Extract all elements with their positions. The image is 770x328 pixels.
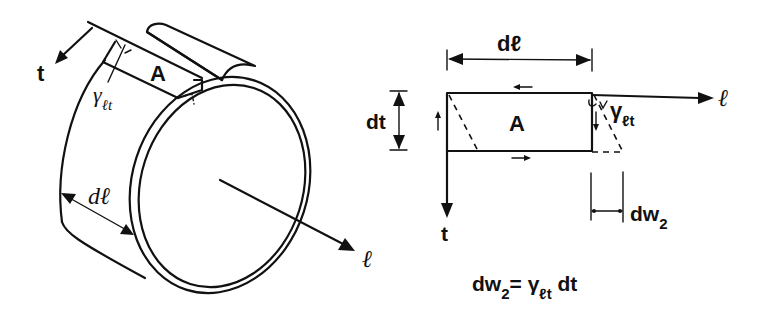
shear-arrow-bottom-head [524, 155, 531, 161]
shear-arrow-left-head [435, 111, 441, 118]
eq-equals: = [510, 272, 522, 295]
gamma-subscript: ℓt [102, 97, 112, 113]
tube-front-ring-inner [113, 63, 331, 309]
strain-angle-tick [125, 50, 131, 53]
eq-lhs-sub: 2 [501, 285, 509, 302]
dl-text: dℓ [497, 31, 521, 56]
strain-label-right: γℓt [610, 100, 635, 122]
gamma-symbol: γ [93, 82, 102, 107]
t-axis-label-left: t [37, 63, 44, 85]
dw2-dot-left [592, 209, 596, 213]
eq-gamma: γ [528, 272, 540, 295]
t-axis-arrowhead-right [441, 203, 453, 218]
tube-top-edge [88, 22, 202, 78]
element-a-left-edge [103, 42, 115, 62]
dt-arrowhead-top [393, 92, 405, 106]
dw2-dot-right [618, 209, 622, 213]
strain-angle-arc-2 [600, 101, 607, 108]
diagram-graphics [0, 0, 770, 328]
shear-strain-diagram: t A γℓt dℓ ℓ dℓ dt A ℓ t γℓt dw2 dw2= γℓ… [0, 0, 770, 328]
dl-label-right: dℓ [497, 33, 521, 55]
dl-arrowhead-right [576, 54, 591, 66]
element-a-label-left: A [150, 63, 166, 85]
l-axis-label-left: ℓ [362, 247, 372, 271]
dt-label: dt [366, 111, 386, 132]
equation: dw2= γℓt dt [472, 273, 577, 294]
l-axis-label-right: ℓ [718, 86, 728, 110]
dt-arrowhead-bottom [393, 135, 405, 149]
dw-subscript: 2 [659, 215, 667, 232]
dl-label-left: dℓ [88, 184, 110, 208]
dl-arrowhead-left [448, 53, 463, 65]
deformed-left-edge [449, 95, 478, 151]
shear-arrow-top-head [513, 84, 520, 90]
eq-rhs: dt [557, 272, 577, 295]
eq-gamma-sub: ℓt [539, 285, 551, 302]
element-drawing [390, 49, 714, 222]
dw-text: dw [630, 202, 659, 225]
tube-front-ring-outer [102, 53, 337, 317]
l-axis-arrowhead-right [698, 92, 714, 104]
gamma-symbol-right: γ [610, 98, 622, 123]
dw2-label: dw2 [630, 203, 668, 224]
shear-arrow-right-head [593, 124, 599, 131]
t-axis-label-right: t [441, 223, 448, 244]
element-a-label-right: A [509, 113, 525, 135]
tube-drawing [55, 22, 355, 317]
eq-lhs: dw [472, 272, 501, 295]
l-axis-line-left [220, 180, 345, 245]
l-axis-line-right [592, 95, 700, 98]
dl-dimension-line [450, 59, 590, 60]
strain-label-left: γℓt [93, 84, 112, 106]
t-axis-line-left [62, 28, 92, 56]
tube-bottom-edge [62, 222, 145, 278]
gamma-subscript-right: ℓt [622, 112, 634, 129]
strain-angle-mark [116, 40, 121, 48]
l-axis-arrowhead-left [338, 238, 355, 251]
dl-arrowhead-start [61, 193, 76, 204]
